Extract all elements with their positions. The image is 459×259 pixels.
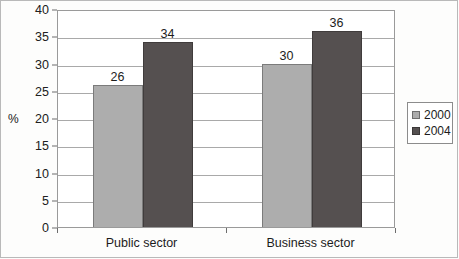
- plot-area: 26343036: [57, 10, 395, 228]
- legend-swatch-icon: [412, 127, 420, 135]
- legend-item-label: 2000: [424, 109, 451, 121]
- bar: [143, 42, 193, 227]
- legend-item-label: 2004: [424, 125, 451, 137]
- bar: [262, 64, 312, 228]
- bar-value-label: 34: [161, 27, 175, 41]
- bar-value-label: 26: [111, 70, 125, 84]
- y-axis-tick-label: 25: [35, 85, 49, 99]
- y-axis-tick-label: 35: [35, 30, 49, 44]
- legend-swatch-icon: [412, 111, 420, 119]
- x-axis-tick-mark: [226, 228, 227, 233]
- x-axis-tick-mark: [57, 228, 58, 233]
- y-axis-tick-label: 20: [35, 112, 49, 126]
- bar-chart-figure: % 0510152025303540 26343036 2000 2004 Pu…: [0, 0, 459, 259]
- bar: [312, 31, 362, 227]
- legend-item: 2004: [412, 123, 448, 139]
- bar-value-label: 36: [330, 16, 344, 30]
- y-axis-tick-label: 10: [35, 167, 49, 181]
- x-axis-category-label: Business sector: [266, 236, 354, 250]
- y-axis-tick-label: 40: [35, 3, 49, 17]
- bar-value-label: 30: [280, 49, 294, 63]
- y-axis-tick-label: 30: [35, 58, 49, 72]
- chart-legend: 2000 2004: [407, 102, 453, 144]
- legend-item: 2000: [412, 107, 448, 123]
- bar: [93, 85, 143, 227]
- y-axis-tick-label: 5: [42, 194, 49, 208]
- x-axis-category-label: Public sector: [106, 236, 178, 250]
- y-axis-tick-label: 0: [42, 221, 49, 235]
- y-axis-tick-label: 15: [35, 139, 49, 153]
- x-axis-tick-mark: [395, 228, 396, 233]
- y-axis: 0510152025303540: [0, 0, 57, 259]
